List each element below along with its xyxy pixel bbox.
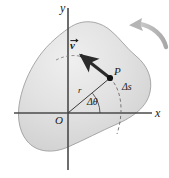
delta-theta-label: Δθ: [87, 97, 98, 107]
y-axis-label: y: [60, 2, 65, 14]
delta-s-label: Δs: [122, 82, 132, 92]
velocity-vector-label: v: [70, 40, 75, 51]
origin-label: O: [55, 115, 63, 126]
x-axis-label: x: [155, 107, 160, 119]
vector-overbar-arrow-icon: [70, 38, 79, 43]
radius-label: r: [78, 86, 82, 95]
figure-canvas: [0, 0, 169, 178]
point-p-label: P: [114, 66, 121, 77]
point-p-marker: [107, 75, 113, 81]
physics-figure-rotational-motion: y x O P r Δθ Δs v: [0, 0, 169, 178]
rotation-arrow-curve: [140, 24, 166, 47]
